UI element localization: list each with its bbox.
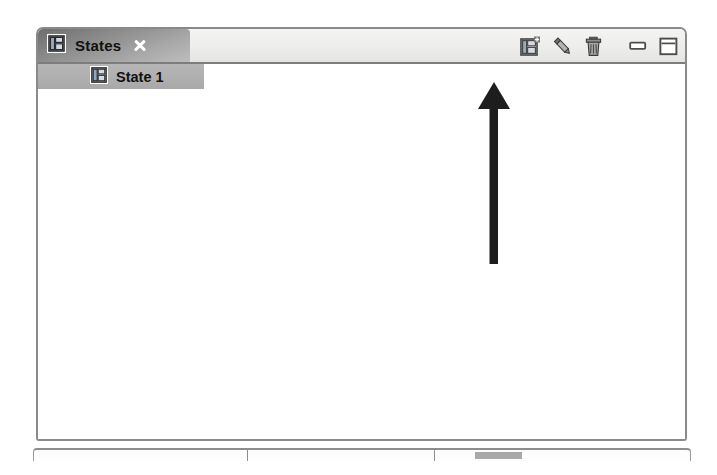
tab-label: States [75, 37, 121, 54]
delete-state-button[interactable] [582, 34, 606, 58]
tree-item-label: State 1 [116, 69, 164, 85]
toolbar-divider [614, 46, 619, 47]
status-progress-bar [475, 452, 522, 459]
maximize-button[interactable] [657, 35, 679, 57]
view-toolbar [518, 32, 679, 60]
tab-states[interactable]: States [38, 29, 190, 62]
status-cell-2 [248, 450, 435, 461]
new-state-button[interactable] [518, 34, 542, 58]
edit-state-button[interactable] [550, 34, 574, 58]
status-bar [33, 448, 691, 461]
view-panel-icon [90, 66, 108, 88]
states-tree[interactable]: State 1 [38, 64, 685, 439]
status-cell-3 [435, 450, 690, 461]
minimize-button[interactable] [627, 35, 649, 57]
view-panel-icon [47, 34, 66, 57]
status-cell-1 [34, 450, 248, 461]
view-title-bar: States [38, 29, 685, 64]
states-view-panel: States [36, 27, 687, 441]
close-icon[interactable] [132, 38, 147, 53]
tree-item-state1[interactable]: State 1 [38, 64, 204, 89]
